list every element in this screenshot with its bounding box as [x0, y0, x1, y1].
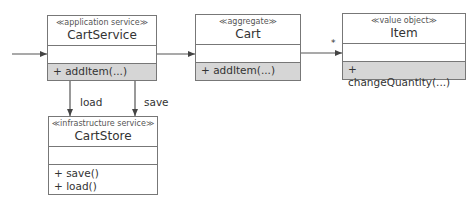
class-name: CartService	[48, 28, 156, 42]
attributes-compartment	[49, 147, 157, 165]
multiplicity-label: *	[331, 38, 336, 48]
operation: + changeQuantity(...)	[348, 63, 460, 89]
operations-compartment: + save() + load()	[49, 165, 157, 194]
attributes-compartment	[343, 44, 465, 62]
operation: + addItem(...)	[53, 65, 151, 78]
class-header: ≪application service≫ CartService	[48, 16, 156, 46]
class-header: ≪infrastructure service≫ CartStore	[49, 117, 157, 147]
class-header: ≪value object≫ Item	[343, 14, 465, 44]
stereotype: ≪value object≫	[343, 14, 465, 26]
class-name: Cart	[196, 27, 300, 41]
class-name: CartStore	[49, 129, 157, 143]
operation: + load()	[54, 180, 152, 193]
class-cart-service: ≪application service≫ CartService + addI…	[47, 15, 157, 81]
class-header: ≪aggregate≫ Cart	[196, 15, 300, 45]
attributes-compartment	[196, 45, 300, 63]
save-label: save	[144, 96, 169, 108]
class-cart: ≪aggregate≫ Cart + addItem(...)	[195, 14, 301, 81]
class-name: Item	[343, 26, 465, 40]
class-cart-store: ≪infrastructure service≫ CartStore + sav…	[48, 116, 158, 195]
load-label: load	[80, 96, 102, 108]
operations-compartment: + changeQuantity(...)	[343, 62, 465, 79]
operation: + save()	[54, 167, 152, 180]
stereotype: ≪application service≫	[48, 16, 156, 28]
attributes-compartment	[48, 46, 156, 64]
operations-compartment: + addItem(...)	[48, 64, 156, 80]
stereotype: ≪infrastructure service≫	[49, 117, 157, 129]
operation: + addItem(...)	[201, 64, 295, 77]
stereotype: ≪aggregate≫	[196, 15, 300, 27]
operations-compartment: + addItem(...)	[196, 63, 300, 80]
class-item: ≪value object≫ Item + changeQuantity(...…	[342, 13, 466, 80]
